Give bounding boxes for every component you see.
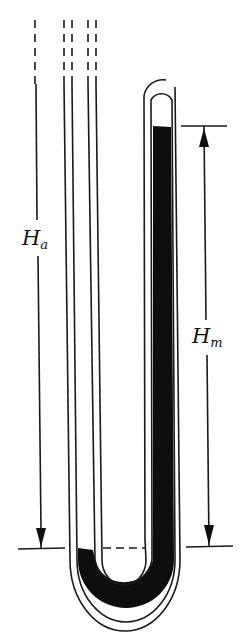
hm-bottom-line	[186, 546, 233, 547]
open-tube-inner-right	[88, 84, 95, 560]
open-tube-outer-left	[64, 84, 70, 560]
hm-arrow-down-icon	[204, 525, 214, 545]
closed-tube-outer-wall-right	[175, 87, 180, 560]
manometer-diagram: Ha Hm	[0, 0, 248, 639]
ha-dimension-line-upper	[36, 84, 37, 220]
hm-dimension-line-upper	[204, 126, 206, 320]
hm-label: Hm	[191, 324, 223, 350]
ha-dimension-line-lower	[38, 256, 41, 530]
hm-arrow-up-icon	[199, 128, 209, 147]
open-tube-outer-right	[96, 84, 102, 560]
ha-label: Ha	[21, 226, 48, 252]
ha-arrow-down-icon	[36, 528, 46, 547]
ha-bottom-line	[18, 548, 65, 549]
hm-dimension-line-lower	[207, 355, 209, 546]
u-bend-inner-wall	[102, 540, 146, 585]
open-tube-inner-left	[72, 84, 77, 560]
